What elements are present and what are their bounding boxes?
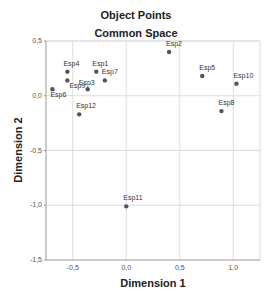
y-tick-label: -1,0 — [30, 201, 42, 208]
point-label: Esp4 — [63, 60, 79, 68]
y-tick-label: -0,5 — [30, 147, 42, 154]
grid-lines — [46, 41, 260, 260]
data-points: Esp1Esp2Esp3Esp4Esp5Esp6Esp7Esp8Esp9Esp1… — [50, 40, 253, 209]
y-axis-title: Dimension 2 — [12, 117, 24, 182]
data-point-esp2 — [167, 50, 171, 54]
data-point-esp12 — [77, 112, 81, 116]
point-label: Esp6 — [50, 91, 66, 99]
y-tick-label: 0,5 — [32, 37, 42, 44]
x-tick-label: 0,5 — [175, 264, 185, 271]
y-tick-label: -1,5 — [30, 256, 42, 263]
point-label: Esp12 — [76, 102, 96, 110]
y-tick-label: 0,0 — [32, 92, 42, 99]
data-point-esp4 — [65, 69, 69, 73]
point-label: Esp9 — [69, 82, 85, 90]
data-point-esp11 — [124, 204, 128, 208]
point-label: Esp7 — [102, 68, 118, 76]
data-point-esp3 — [86, 87, 90, 91]
point-label: Esp5 — [199, 64, 215, 72]
x-tick-label: 0,0 — [121, 264, 131, 271]
x-tick-label: -0,5 — [67, 264, 79, 271]
scatter-plot: -0,50,00,51,00,50,0-0,5-1,0-1,5 Esp1Esp2… — [0, 0, 272, 303]
tick-labels: -0,50,00,51,00,50,0-0,5-1,0-1,5 — [30, 37, 238, 271]
data-point-esp10 — [234, 82, 238, 86]
x-axis-title: Dimension 1 — [120, 277, 185, 289]
point-label: Esp2 — [166, 40, 182, 48]
data-point-esp7 — [103, 78, 107, 82]
x-tick-label: 1,0 — [228, 264, 238, 271]
data-point-esp1 — [94, 69, 98, 73]
data-point-esp8 — [219, 109, 223, 113]
point-label: Esp8 — [218, 99, 234, 107]
data-point-esp5 — [200, 74, 204, 78]
point-label: Esp1 — [92, 60, 108, 68]
point-label: Esp11 — [123, 194, 142, 202]
point-label: Esp10 — [233, 72, 253, 80]
